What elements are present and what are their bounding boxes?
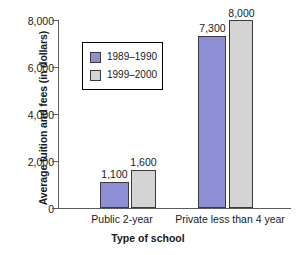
bar-privatelessthan4year-1989-1990 xyxy=(198,36,226,208)
legend-label-1989-1990: 1989–1990 xyxy=(107,52,157,62)
bar-value-label-public2year-1999-2000: 1,600 xyxy=(117,157,170,168)
legend-label-1999-2000: 1999–2000 xyxy=(107,70,157,80)
bar-public2year-1989-1990 xyxy=(100,182,129,208)
legend: 1989–1990 1999–2000 xyxy=(82,42,163,90)
bar-privatelessthan4year-1999-2000 xyxy=(229,20,253,208)
legend-item-1989-1990: 1989–1990 xyxy=(90,49,156,65)
legend-swatch-icon-1999-2000 xyxy=(90,70,101,81)
y-tick-label-6000: 6,000 xyxy=(8,63,54,74)
x-axis-line xyxy=(58,208,291,209)
bar-public2year-1999-2000 xyxy=(131,170,156,208)
legend-item-1999-2000: 1999–2000 xyxy=(90,67,156,83)
y-tick-label-2000: 2,000 xyxy=(8,157,54,168)
y-tick-label-8000: 8,000 xyxy=(8,16,54,27)
y-tick-label-4000: 4,000 xyxy=(8,110,54,121)
y-axis-tick-labels: 8,000 6,000 4,000 2,000 0 xyxy=(4,0,54,255)
x-axis-title: Type of school xyxy=(0,232,296,244)
bar-value-label-privatelessthan4year-1999-2000: 8,000 xyxy=(215,8,268,19)
legend-swatch-icon-1989-1990 xyxy=(90,52,101,63)
x-category-label-public-2-year: Public 2-year xyxy=(72,214,172,225)
x-category-label-private-less-than-4-year: Private less than 4 year xyxy=(165,214,295,225)
y-tick-label-0: 0 xyxy=(8,204,54,215)
bar-chart: Average tuition and fees (in dollars) 8,… xyxy=(0,0,296,255)
